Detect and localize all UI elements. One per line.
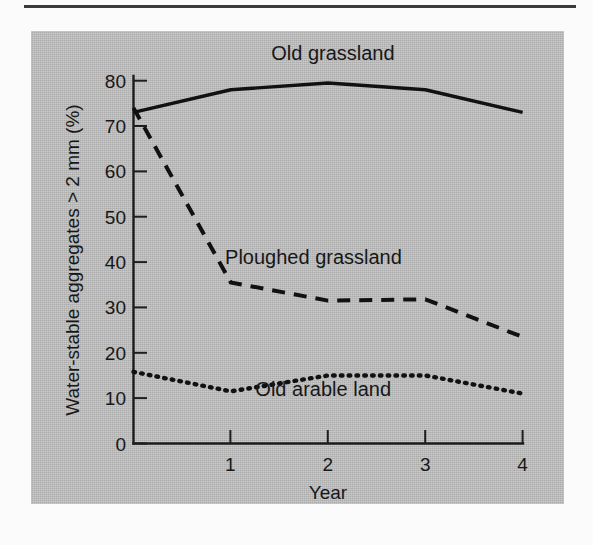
y-tick-label-20: 20	[105, 343, 126, 364]
y-tick-label-30: 30	[105, 297, 126, 318]
line-chart: 0 10 20 30 40 50 60 70 80 1 2 3 4 Year W…	[0, 0, 593, 545]
y-tick-label-0: 0	[115, 434, 126, 455]
y-axis-tick-labels: 0 10 20 30 40 50 60 70 80	[105, 71, 126, 455]
x-axis-title: Year	[309, 482, 348, 503]
y-tick-label-50: 50	[105, 207, 126, 228]
series-line-old-grassland	[134, 83, 523, 112]
series-layer	[134, 83, 523, 394]
y-tick-label-60: 60	[105, 161, 126, 182]
series-line-ploughed-grassland	[134, 108, 523, 337]
x-tick-label-3: 3	[420, 454, 431, 475]
x-axis-ticks	[230, 430, 522, 443]
y-tick-label-80: 80	[105, 71, 126, 92]
y-axis-ticks	[134, 81, 147, 444]
y-tick-label-10: 10	[105, 388, 126, 409]
y-tick-label-70: 70	[105, 116, 126, 137]
figure-page: 0 10 20 30 40 50 60 70 80 1 2 3 4 Year W…	[0, 0, 593, 545]
x-axis-tick-labels: 1 2 3 4	[225, 454, 528, 475]
series-label-ploughed-grassland: Ploughed grassland	[225, 246, 402, 268]
y-tick-label-40: 40	[105, 252, 126, 273]
series-label-old-arable-land: Old arable land	[255, 378, 391, 400]
y-axis-title: Water-stable aggregates > 2 mm (%)	[62, 104, 83, 415]
x-tick-label-4: 4	[517, 454, 528, 475]
x-tick-label-1: 1	[225, 454, 236, 475]
series-label-layer: Old grasslandPloughed grasslandOld arabl…	[225, 42, 402, 400]
series-label-old-grassland: Old grassland	[271, 42, 394, 64]
x-tick-label-2: 2	[323, 454, 334, 475]
